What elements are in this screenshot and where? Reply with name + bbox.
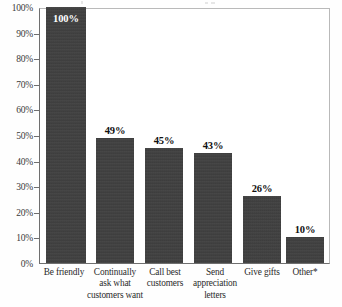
- bar[interactable]: [194, 153, 232, 263]
- bar-slot: 45%: [145, 9, 183, 263]
- bar-series: 100%49%45%43%26%10%: [40, 9, 329, 263]
- y-axis-tick-mark: [34, 238, 39, 239]
- x-axis-label-line: letters: [181, 290, 249, 301]
- bar-slot: 100%: [46, 9, 86, 263]
- x-axis-label-line: customers want: [82, 290, 148, 301]
- bar[interactable]: [286, 237, 324, 263]
- bar-slot: 49%: [96, 9, 134, 263]
- x-axis-label-line: Other*: [281, 267, 329, 278]
- y-axis-tick-label: 40%: [0, 157, 33, 167]
- y-axis-tick-label: 20%: [0, 208, 33, 218]
- bar[interactable]: [145, 148, 183, 263]
- y-axis-tick-mark: [34, 162, 39, 163]
- bar[interactable]: [96, 138, 134, 263]
- y-axis-tick-mark: [34, 187, 39, 188]
- y-axis-tick-label: 80%: [0, 54, 33, 64]
- bar-value-label: 100%: [53, 13, 79, 24]
- plot-area: 100%49%45%43%26%10%: [39, 8, 330, 264]
- y-axis-tick-label: 0%: [0, 259, 33, 269]
- bar-value-label: 45%: [154, 135, 175, 146]
- bar-slot: 10%: [286, 9, 324, 263]
- scan-artifact: [81, 1, 83, 4]
- bar-slot: 26%: [243, 9, 281, 263]
- y-axis-tick-mark: [34, 59, 39, 60]
- bar-value-label: 49%: [105, 125, 126, 136]
- y-axis-tick-label: 70%: [0, 80, 33, 90]
- x-axis: Be friendlyContinuallyask whatcustomers …: [39, 267, 330, 307]
- y-axis-tick-label: 30%: [0, 182, 33, 192]
- bar-chart-figure: 100%90%80%70%60%50%40%30%20%10%0% 100%49…: [0, 0, 342, 307]
- y-axis-tick-label: 10%: [0, 233, 33, 243]
- bar-value-label: 26%: [252, 183, 273, 194]
- bar-slot: 43%: [194, 9, 232, 263]
- y-axis-tick-label: 100%: [0, 3, 33, 13]
- x-axis-category-label: Other*: [281, 267, 329, 278]
- y-axis: 100%90%80%70%60%50%40%30%20%10%0%: [0, 8, 33, 264]
- bar[interactable]: [46, 7, 86, 263]
- bar[interactable]: [243, 196, 281, 263]
- bar-value-label: 10%: [295, 224, 316, 235]
- x-axis-label-line: appreciation: [181, 278, 249, 289]
- y-axis-tick-label: 60%: [0, 105, 33, 115]
- y-axis-tick-label: 90%: [0, 29, 33, 39]
- scan-artifact: [211, 2, 215, 4]
- y-axis-tick-mark: [34, 213, 39, 214]
- y-axis-tick-mark: [34, 136, 39, 137]
- y-axis-tick-mark: [34, 34, 39, 35]
- y-axis-tick-label: 50%: [0, 131, 33, 141]
- bar-value-label: 43%: [203, 140, 224, 151]
- y-axis-tick-mark: [34, 110, 39, 111]
- scan-artifact: [205, 2, 208, 4]
- y-axis-tick-mark: [34, 85, 39, 86]
